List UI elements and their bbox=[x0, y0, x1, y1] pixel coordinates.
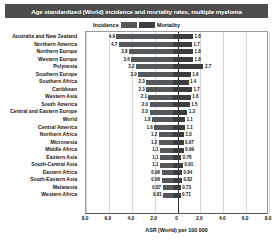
category-label: Northern Africa bbox=[0, 131, 81, 139]
incidence-bar bbox=[136, 64, 173, 69]
incidence-value-label: 2.3 bbox=[138, 86, 144, 94]
chart-row: South-Eastern Asia0.960.82 bbox=[0, 176, 273, 184]
incidence-bar bbox=[160, 148, 173, 153]
incidence-value-label: 1.6 bbox=[146, 124, 152, 132]
chart-row: Southern Africa2.31.4 bbox=[0, 78, 273, 86]
mortality-value-label: 1.6 bbox=[192, 71, 198, 79]
x-axis-tick-label: 0 bbox=[175, 216, 178, 221]
x-axis-tick-label: 2.0 bbox=[150, 216, 157, 221]
chart-row: Eastern Africa0.960.84 bbox=[0, 169, 273, 177]
incidence-bar bbox=[146, 87, 172, 92]
bar-pair: 0.810.71 bbox=[81, 191, 264, 199]
incidence-bar bbox=[131, 57, 172, 62]
mortality-value-label: 0.91 bbox=[184, 161, 193, 169]
incidence-value-label: 0.96 bbox=[151, 169, 160, 177]
mortality-value-label: 1.5 bbox=[191, 101, 197, 109]
bar-pair: 3.61.8 bbox=[81, 56, 264, 64]
chart-rows: Australia and New Zealand4.91.8Northern … bbox=[0, 33, 273, 199]
bar-pair: 2.31.4 bbox=[81, 78, 264, 86]
bar-pair: 2.01.5 bbox=[81, 101, 264, 109]
mortality-bar bbox=[173, 102, 190, 107]
incidence-bar bbox=[159, 140, 173, 145]
mortality-value-label: 0.76 bbox=[183, 154, 192, 162]
chart-row: Western Africa0.810.71 bbox=[0, 191, 273, 199]
mortality-bar bbox=[173, 57, 194, 62]
incidence-value-label: 4.7 bbox=[111, 41, 117, 49]
incidence-value-label: 0.81 bbox=[153, 191, 162, 199]
incidence-bar bbox=[152, 117, 173, 122]
incidence-bar bbox=[159, 132, 173, 137]
category-label: Western Asia bbox=[0, 93, 81, 101]
incidence-bar bbox=[116, 34, 172, 39]
bar-pair: 3.22.7 bbox=[81, 63, 264, 71]
mortality-bar bbox=[173, 95, 191, 100]
category-label: Middle Africa bbox=[0, 146, 81, 154]
mortality-bar bbox=[173, 80, 189, 85]
chart-row: Central America1.61.1 bbox=[0, 124, 273, 132]
incidence-value-label: 0.96 bbox=[151, 176, 160, 184]
chart-row: Western Europe3.61.8 bbox=[0, 56, 273, 64]
mortality-value-label: 1.4 bbox=[190, 78, 196, 86]
incidence-bar bbox=[163, 193, 172, 198]
incidence-value-label: 1.8 bbox=[144, 116, 150, 124]
incidence-value-label: 2.0 bbox=[142, 108, 148, 116]
legend-swatch-mortality bbox=[139, 22, 155, 28]
chart-row: Middle Africa1.10.99 bbox=[0, 146, 273, 154]
x-axis-tick-label: 8.0 bbox=[82, 216, 89, 221]
mortality-bar bbox=[173, 140, 184, 145]
chart-row: Caribbean2.31.7 bbox=[0, 86, 273, 94]
category-label: Central and Eastern Europe bbox=[0, 108, 81, 116]
category-label: South-Eastern Asia bbox=[0, 176, 81, 184]
bar-pair: 2.01.3 bbox=[81, 108, 264, 116]
incidence-bar bbox=[146, 80, 172, 85]
bar-pair: 0.960.84 bbox=[81, 169, 264, 177]
incidence-value-label: 3.2 bbox=[128, 63, 134, 71]
mortality-value-label: 1.7 bbox=[193, 86, 199, 94]
incidence-value-label: 1.2 bbox=[151, 139, 157, 147]
bar-pair: 4.91.8 bbox=[81, 33, 264, 41]
incidence-bar bbox=[150, 110, 173, 115]
bar-pair: 0.960.82 bbox=[81, 176, 264, 184]
mortality-bar bbox=[173, 117, 186, 122]
incidence-value-label: 3.6 bbox=[124, 56, 130, 64]
bar-pair: 1.61.1 bbox=[81, 124, 264, 132]
chart-title-bar: Age standardized (World) incidence and m… bbox=[5, 4, 268, 18]
bar-pair: 2.11.6 bbox=[81, 93, 264, 101]
mortality-bar bbox=[173, 132, 184, 137]
mortality-bar bbox=[173, 34, 194, 39]
bar-pair: 3.81.8 bbox=[81, 48, 264, 56]
chart-row: World1.81.1 bbox=[0, 116, 273, 124]
chart-row: Northern America4.71.7 bbox=[0, 41, 273, 49]
incidence-bar bbox=[160, 155, 173, 160]
mortality-bar bbox=[173, 148, 184, 153]
incidence-bar bbox=[163, 185, 173, 190]
mortality-value-label: 2.7 bbox=[205, 63, 211, 71]
mortality-bar bbox=[173, 125, 186, 130]
x-axis-tick-label: 4.0 bbox=[219, 216, 226, 221]
mortality-value-label: 0.97 bbox=[185, 139, 194, 147]
incidence-value-label: 3.0 bbox=[130, 71, 136, 79]
mortality-value-label: 1.8 bbox=[195, 33, 201, 41]
category-label: Micronesia bbox=[0, 139, 81, 147]
category-label: World bbox=[0, 116, 81, 124]
page-title: Age standardized (World) incidence and m… bbox=[31, 8, 242, 15]
mortality-bar bbox=[173, 72, 191, 77]
category-label: Western Africa bbox=[0, 191, 81, 199]
x-axis-tick-label: 6.0 bbox=[105, 216, 112, 221]
mortality-value-label: 1.1 bbox=[187, 116, 193, 124]
bar-pair: 1.21.0 bbox=[81, 131, 264, 139]
mortality-value-label: 0.73 bbox=[182, 184, 191, 192]
category-label: Central America bbox=[0, 124, 81, 132]
bar-pair: 2.31.7 bbox=[81, 86, 264, 94]
category-label: Northern Europe bbox=[0, 48, 81, 56]
category-label: Eastern Africa bbox=[0, 169, 81, 177]
mortality-value-label: 1.1 bbox=[187, 124, 193, 132]
mortality-bar bbox=[173, 87, 192, 92]
category-label: Western Europe bbox=[0, 56, 81, 64]
category-label: Southern Africa bbox=[0, 78, 81, 86]
incidence-bar bbox=[162, 178, 173, 183]
category-label: South-Central Asia bbox=[0, 161, 81, 169]
mortality-bar bbox=[173, 49, 194, 54]
mortality-bar bbox=[173, 163, 183, 168]
chart-legend: Incidence Mortality bbox=[0, 20, 273, 30]
